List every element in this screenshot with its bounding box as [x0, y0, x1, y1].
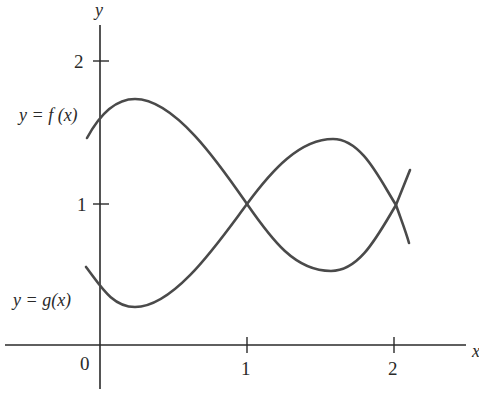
y-tick-label-2: 2 — [74, 51, 84, 72]
curve-f-label: y = f (x) — [17, 105, 78, 126]
function-graph: y x 2 1 1 2 0 y = f (x) y = g(x) — [0, 0, 479, 394]
curve-f — [87, 99, 409, 271]
x-tick-label-1: 1 — [241, 358, 251, 379]
origin-label: 0 — [80, 353, 90, 374]
x-tick-label-2: 2 — [388, 358, 398, 379]
curve-g — [86, 139, 410, 307]
curve-g-label: y = g(x) — [11, 290, 71, 311]
y-tick-label-1: 1 — [77, 194, 87, 215]
y-axis-label: y — [93, 0, 103, 20]
x-axis-label: x — [471, 341, 479, 361]
